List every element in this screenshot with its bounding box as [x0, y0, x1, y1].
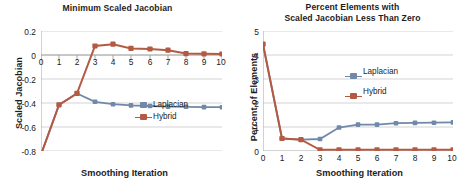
x-tick-label-left-8: 8 [176, 57, 196, 67]
line-plot-left [41, 31, 222, 151]
figure-two-line-charts: Minimum Scaled Jacobian Scaled Jacobian … [0, 0, 470, 188]
y-tick-label-right-3: 2 [243, 99, 259, 109]
x-tick-label-right-1: 1 [272, 153, 292, 163]
x-tick-label-left-7: 7 [158, 57, 178, 67]
chart-panel-percent-elements: Percent Elements with Scaled Jacobian Le… [235, 0, 470, 188]
x-axis-title-left: Smoothing Iteration [20, 168, 229, 178]
x-tick-label-left-1: 1 [49, 57, 69, 67]
x-tick-label-right-9: 9 [424, 153, 444, 163]
y-tick-label-right-1: 4 [243, 51, 259, 61]
x-tick-label-left-2: 2 [67, 57, 87, 67]
legend-left: Laplacian Hybrid [135, 99, 188, 123]
legend-swatch-laplacian-icon [345, 68, 362, 77]
legend-swatch-hybrid-icon [345, 88, 362, 97]
y-tick-label-left-4: -0.6 [12, 123, 36, 133]
x-tick-label-right-3: 3 [310, 153, 330, 163]
x-tick-label-right-7: 7 [386, 153, 406, 163]
y-tick-label-left-0: 0.2 [12, 27, 36, 37]
legend-item-hybrid-right[interactable]: Hybrid [345, 82, 398, 102]
x-tick-label-left-3: 3 [85, 57, 105, 67]
legend-item-hybrid-left[interactable]: Hybrid [135, 111, 188, 123]
x-tick-label-right-10: 10 [442, 153, 462, 163]
x-tick-label-right-4: 4 [329, 153, 349, 163]
legend-label-laplacian-right: Laplacian [363, 67, 398, 77]
x-tick-label-right-2: 2 [291, 153, 311, 163]
y-tick-label-left-5: -0.8 [12, 147, 36, 157]
plot-area-left [41, 31, 222, 151]
legend-item-laplacian-right[interactable]: Laplacian [345, 62, 398, 82]
x-tick-label-right-5: 5 [348, 153, 368, 163]
legend-label-hybrid-left: Hybrid [153, 112, 177, 122]
y-tick-label-right-2: 3 [243, 75, 259, 85]
x-tick-label-left-4: 4 [103, 57, 123, 67]
x-tick-label-left-5: 5 [121, 57, 141, 67]
x-tick-label-right-8: 8 [405, 153, 425, 163]
x-tick-label-left-10: 10 [211, 57, 231, 67]
x-tick-label-left-6: 6 [140, 57, 160, 67]
chart-title-right-line1: Percent Elements with [235, 2, 470, 13]
legend-swatch-hybrid-icon [135, 113, 152, 122]
y-tick-label-left-3: -0.4 [12, 99, 36, 109]
legend-swatch-laplacian-icon [135, 101, 152, 110]
x-axis-title-right: Smoothing Iteration [255, 168, 464, 178]
chart-panel-minimum-scaled-jacobian: Minimum Scaled Jacobian Scaled Jacobian … [0, 0, 235, 188]
legend-right: Laplacian Hybrid [345, 62, 398, 102]
chart-title-left: Minimum Scaled Jacobian [0, 3, 235, 14]
y-tick-label-right-0: 5 [243, 27, 259, 37]
x-tick-label-right-6: 6 [367, 153, 387, 163]
chart-title-right-line2: Scaled Jacobian Less Than Zero [235, 13, 470, 24]
legend-label-hybrid-right: Hybrid [363, 87, 387, 97]
x-tick-label-right-0: 0 [253, 153, 273, 163]
x-tick-label-left-0: 0 [31, 57, 51, 67]
legend-item-laplacian-left[interactable]: Laplacian [135, 99, 188, 111]
y-tick-label-right-4: 1 [243, 123, 259, 133]
legend-label-laplacian-left: Laplacian [153, 100, 188, 110]
y-tick-label-left-2: -0.2 [12, 75, 36, 85]
